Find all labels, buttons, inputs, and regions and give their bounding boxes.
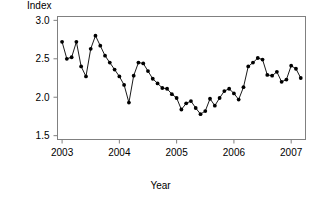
data-point [294, 67, 298, 71]
y-axis-ticks [54, 20, 58, 135]
data-point [156, 81, 160, 85]
data-point [60, 40, 64, 44]
data-point [237, 98, 241, 102]
x-axis-tick-labels: 20032004200520062007 [51, 147, 303, 158]
y-axis-tick-labels: 1.52.02.53.0 [36, 15, 50, 141]
y-tick-label: 1.5 [36, 130, 50, 141]
data-point [165, 87, 169, 91]
data-point [94, 34, 98, 38]
data-point [227, 87, 231, 91]
data-point [113, 68, 117, 72]
data-point [208, 97, 212, 101]
data-point [251, 61, 255, 65]
x-tick-label: 2004 [108, 147, 131, 158]
data-point [275, 70, 279, 74]
data-point [232, 91, 236, 95]
line-chart-plot: 20032004200520062007 1.52.02.53.0 [0, 0, 321, 206]
data-point [170, 92, 174, 96]
data-point [84, 75, 88, 79]
y-tick-label: 3.0 [36, 15, 50, 26]
data-point [179, 108, 183, 112]
data-point [70, 55, 74, 59]
data-point [265, 73, 269, 77]
data-point [141, 61, 145, 65]
data-point [127, 101, 131, 105]
y-tick-label: 2.5 [36, 53, 50, 64]
data-point [184, 101, 188, 105]
data-point [189, 99, 193, 103]
data-point [103, 54, 107, 58]
data-point [122, 83, 126, 87]
data-point [151, 77, 155, 81]
x-tick-label: 2006 [223, 147, 246, 158]
data-point [132, 74, 136, 78]
data-point [280, 80, 284, 84]
y-tick-label: 2.0 [36, 92, 50, 103]
series-line [62, 36, 301, 114]
data-point [261, 58, 265, 62]
data-point [175, 96, 179, 100]
series-markers [60, 34, 302, 116]
x-tick-label: 2007 [280, 147, 303, 158]
data-point [79, 65, 83, 69]
data-point [199, 112, 203, 116]
data-point [289, 64, 293, 68]
data-point [213, 104, 217, 108]
data-point [137, 61, 141, 65]
data-point [218, 96, 222, 100]
chart-figure: Index Year 20032004200520062007 1.52.02.… [0, 0, 321, 206]
data-point [256, 56, 260, 60]
data-point [98, 44, 102, 48]
data-point [89, 47, 93, 51]
data-point [194, 106, 198, 110]
x-axis-ticks [62, 140, 291, 144]
data-point [222, 89, 226, 93]
data-point [270, 74, 274, 78]
data-point [160, 86, 164, 90]
x-tick-label: 2005 [166, 147, 189, 158]
data-point [242, 85, 246, 89]
data-point [285, 78, 289, 82]
data-point [203, 109, 207, 113]
data-point [108, 61, 112, 65]
data-point [246, 65, 250, 69]
x-tick-label: 2003 [51, 147, 74, 158]
data-point [146, 69, 150, 73]
data-point [75, 40, 79, 44]
data-point [117, 75, 121, 79]
data-point [65, 57, 69, 61]
data-point [299, 76, 303, 80]
